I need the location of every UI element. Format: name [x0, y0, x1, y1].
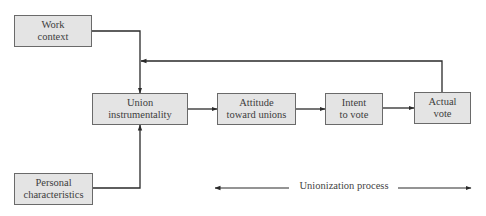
node-label-line: instrumentality [108, 109, 172, 121]
node-work-context: Work context [14, 15, 92, 47]
node-label-line: vote [433, 108, 451, 120]
node-label-line: Union [127, 97, 153, 109]
node-label-line: toward unions [227, 109, 287, 121]
edge-feedback-actual-to-union [141, 61, 442, 92]
node-intent-to-vote: Intent to vote [325, 93, 383, 125]
node-union-instrumentality: Union instrumentality [92, 93, 188, 125]
node-personal-characteristics: Personal characteristics [14, 173, 93, 205]
node-label-line: Personal [35, 177, 71, 189]
node-attitude-toward-unions: Attitude toward unions [217, 93, 296, 125]
node-label-line: Actual [429, 96, 457, 108]
unionization-process-label: Unionization process [296, 180, 392, 191]
node-actual-vote: Actual vote [414, 92, 471, 124]
edge-personal-to-union [93, 125, 140, 188]
edge-work-to-union [92, 31, 140, 93]
node-label-line: characteristics [23, 189, 83, 201]
node-label-line: Intent [342, 97, 367, 109]
node-label-line: Work [41, 19, 64, 31]
node-label-line: to vote [340, 109, 369, 121]
node-label-line: context [38, 31, 69, 43]
node-label-line: Attitude [239, 97, 273, 109]
